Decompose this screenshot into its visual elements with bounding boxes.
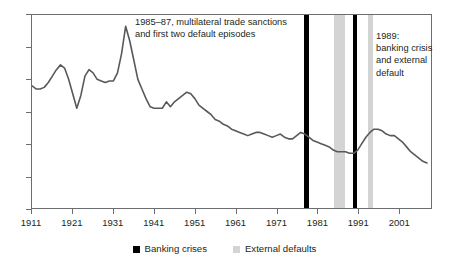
plot-area (31, 14, 432, 209)
legend-item-external-defaults: External defaults (233, 244, 316, 254)
y-axis: 020406080100120 (0, 0, 31, 269)
x-tick-mark (31, 209, 32, 214)
x-tick-mark (358, 209, 359, 214)
x-tick-mark (236, 209, 237, 214)
x-tick-label: 1921 (61, 217, 82, 228)
x-tick-mark (317, 209, 318, 214)
x-tick-label: 1991 (348, 217, 369, 228)
annotation-1989-crisis: 1989: banking crisis and external defaul… (376, 30, 432, 79)
x-tick-mark (277, 209, 278, 214)
series-line (32, 15, 431, 208)
chart-figure: 020406080100120 191119211931194119511961… (0, 0, 449, 269)
legend-label-external-defaults: External defaults (245, 244, 316, 254)
legend-item-banking-crises: Banking crises (133, 244, 207, 254)
annotation-trade-sanctions: 1985–87, multilateral trade sanctions an… (135, 16, 287, 40)
x-tick-label: 1981 (307, 217, 328, 228)
legend-swatch-banking-icon (133, 246, 140, 253)
legend-swatch-defaults-icon (233, 246, 240, 253)
x-tick-mark (195, 209, 196, 214)
x-tick-mark (113, 209, 114, 214)
x-tick-label: 1961 (225, 217, 246, 228)
x-tick-mark (72, 209, 73, 214)
x-tick-label: 1971 (266, 217, 287, 228)
x-tick-label: 2001 (389, 217, 410, 228)
x-tick-mark (154, 209, 155, 214)
x-tick-label: 1941 (143, 217, 164, 228)
chart-legend: Banking crises External defaults (0, 244, 449, 254)
x-tick-label: 1911 (21, 217, 41, 228)
x-tick-label: 1951 (184, 217, 205, 228)
x-tick-mark (399, 209, 400, 214)
x-tick-label: 1931 (102, 217, 123, 228)
legend-label-banking-crises: Banking crises (145, 244, 207, 254)
